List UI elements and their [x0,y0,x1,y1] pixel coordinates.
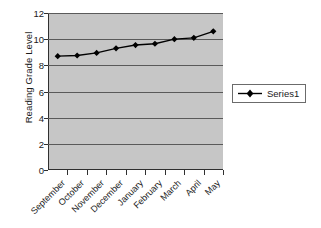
x-tick-mark [106,170,107,175]
series-markers [55,28,217,59]
legend[interactable]: Series1 [232,84,306,103]
data-point-marker [113,45,119,51]
data-point-marker [94,50,100,56]
x-tick-mark [145,170,146,175]
data-point-marker [55,53,61,59]
y-tick-label: 10 [18,34,44,45]
data-point-marker [152,41,158,47]
data-point-marker [210,28,216,34]
x-tick-mark [67,170,68,175]
data-point-marker [132,42,138,48]
y-tick-label: 12 [18,8,44,19]
legend-marker-icon [237,88,263,99]
x-tick-mark [126,170,127,175]
y-tick-label: 0 [18,165,44,176]
data-point-marker [171,36,177,42]
y-tick-mark [44,170,48,171]
y-tick-label: 6 [18,86,44,97]
y-tick-label: 2 [18,138,44,149]
data-point-marker [191,35,197,41]
legend-label-series1: Series1 [267,88,299,99]
x-tick-mark [87,170,88,175]
x-tick-mark [204,170,205,175]
y-tick-label: 8 [18,60,44,71]
data-point-marker [74,52,80,58]
series-plot [48,13,223,170]
x-tick-mark [165,170,166,175]
chart-container: Reading Grade Level 024681012 SeptemberO… [0,0,321,228]
x-tick-mark [184,170,185,175]
x-tick-mark [223,170,224,175]
y-tick-label: 4 [18,112,44,123]
y-axis-title: Reading Grade Level [23,0,34,158]
